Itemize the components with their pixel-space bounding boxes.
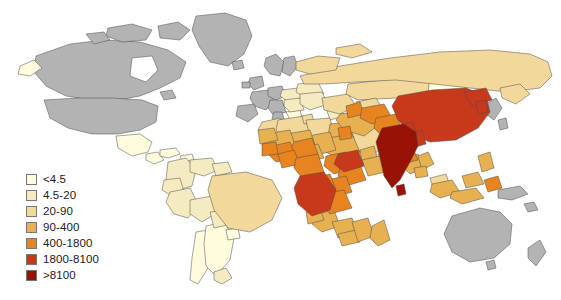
- legend-swatch-icon-3: [26, 222, 37, 233]
- legend-item-1[interactable]: 4.5-20: [26, 188, 99, 203]
- legend-swatch-icon-2: [26, 206, 37, 217]
- world-choropleth-map: <4.5 4.5-20 20-90 90-400 400-1800 1800-8…: [0, 0, 561, 300]
- legend-item-6[interactable]: >8100: [26, 268, 99, 283]
- legend-swatch-icon-0: [26, 174, 37, 185]
- legend-label-5: 1800-8100: [43, 254, 99, 266]
- legend-label-3: 90-400: [43, 222, 79, 234]
- legend-swatch-icon-1: [26, 190, 37, 201]
- legend-label-0: <4.5: [43, 174, 66, 186]
- legend-label-6: >8100: [43, 270, 76, 282]
- legend-label-2: 20-90: [43, 206, 73, 218]
- map-legend: <4.5 4.5-20 20-90 90-400 400-1800 1800-8…: [26, 172, 99, 283]
- legend-swatch-icon-6: [26, 270, 37, 281]
- legend-item-3[interactable]: 90-400: [26, 220, 99, 235]
- legend-label-1: 4.5-20: [43, 190, 76, 202]
- legend-item-2[interactable]: 20-90: [26, 204, 99, 219]
- legend-item-4[interactable]: 400-1800: [26, 236, 99, 251]
- legend-swatch-icon-4: [26, 238, 37, 249]
- legend-label-4: 400-1800: [43, 238, 92, 250]
- legend-item-5[interactable]: 1800-8100: [26, 252, 99, 267]
- legend-item-0[interactable]: <4.5: [26, 172, 99, 187]
- legend-swatch-icon-5: [26, 254, 37, 265]
